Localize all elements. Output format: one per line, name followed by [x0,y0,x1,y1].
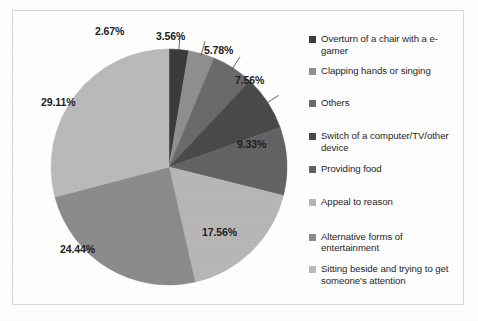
slice-label-6: 24.44% [60,243,95,255]
legend-item-label: Providing food [321,163,382,175]
slice-label-0: 2.67% [95,25,124,37]
legend-item-label: Others [321,97,350,109]
legend-swatch-icon [309,36,316,43]
legend-item-label: Clapping hands or singing [321,65,431,77]
legend-item-0[interactable]: Overturn of a chair with a e-gamer [309,33,459,56]
legend-item-6[interactable]: Alternative forms of entertainment [309,231,459,254]
legend-item-label: Sitting beside and trying to get someone… [321,263,459,286]
chart-legend: Overturn of a chair with a e-gamer Clapp… [309,33,459,295]
leader-line [266,95,279,103]
slice-label-7: 29.11% [41,96,75,108]
legend-item-2[interactable]: Others [309,97,459,109]
slice-label-5: 17.56% [202,226,237,238]
slice-label-4: 9.33% [237,138,266,150]
legend-item-4[interactable]: Providing food [309,163,459,175]
legend-swatch-icon [309,266,316,273]
legend-item-label: Overturn of a chair with a e-gamer [321,33,459,56]
legend-item-5[interactable]: Appeal to reason [309,196,459,208]
legend-item-3[interactable]: Switch of a computer/TV/other device [309,130,459,153]
chart-frame: 2.67% 3.56% 5.78% 7.56% 9.33% 17.56% 24.… [12,10,464,305]
legend-swatch-icon [309,234,316,241]
legend-item-label: Alternative forms of entertainment [321,231,459,254]
legend-item-label: Appeal to reason [321,196,393,208]
legend-swatch-icon [309,133,316,140]
legend-swatch-icon [309,199,316,206]
legend-item-label: Switch of a computer/TV/other device [321,130,459,153]
slice-label-1: 3.56% [156,30,185,42]
slice-label-3: 7.56% [235,74,264,86]
pie-chart: 2.67% 3.56% 5.78% 7.56% 9.33% 17.56% 24.… [13,11,303,306]
pie-svg [13,11,303,306]
legend-swatch-icon [309,68,316,75]
legend-item-7[interactable]: Sitting beside and trying to get someone… [309,263,459,286]
legend-swatch-icon [309,166,316,173]
leader-line [232,57,240,70]
legend-item-1[interactable]: Clapping hands or singing [309,65,459,77]
legend-swatch-icon [309,100,316,107]
slice-label-2: 5.78% [204,44,233,56]
